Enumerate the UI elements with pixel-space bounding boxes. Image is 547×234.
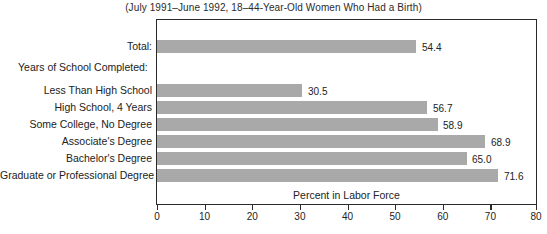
category-label-graduate-or-professional-degree: Graduate or Professional Degree [0,169,152,181]
x-axis-tick-70 [490,205,491,210]
category-label-less-than-high-school: Less Than High School [0,84,152,96]
bar-graduate-or-professional-degree [157,169,498,182]
bar-value-high-school-4-years: 56.7 [433,103,452,114]
category-label-some-college-no-degree: Some College, No Degree [0,118,152,130]
bar-value-less-than-high-school: 30.5 [308,86,327,97]
bar-value-associates-degree: 68.9 [491,137,510,148]
x-axis-tick-80 [536,205,537,210]
bar-value-graduate-or-professional-degree: 71.6 [504,171,523,182]
category-label-bachelors-degree: Bachelor's Degree [0,152,152,164]
x-axis-tick-40 [348,205,349,210]
bar-high-school-4-years [157,101,427,114]
category-label-high-school-4-years: High School, 4 Years [0,101,152,113]
x-axis-tick-label-20: 20 [247,211,258,222]
group-heading-years-of-school: Years of School Completed: [0,61,152,73]
category-label-associates-degree: Associate's Degree [0,135,152,147]
x-axis-tick-20 [252,205,253,210]
bar-bachelors-degree [157,152,467,165]
x-axis-title: Percent in Labor Force [156,189,537,201]
x-axis-tick-50 [395,205,396,210]
x-axis-tick-label-30: 30 [294,211,305,222]
x-axis-tick-label-80: 80 [530,211,541,222]
x-axis-tick-label-60: 60 [437,211,448,222]
x-axis-tick-60 [443,205,444,210]
x-axis-tick-label-70: 70 [485,211,496,222]
bar-value-bachelors-degree: 65.0 [472,154,491,165]
bar-total [157,40,416,53]
x-axis-tick-label-50: 50 [390,211,401,222]
x-axis-tick-label-10: 10 [199,211,210,222]
bar-value-total: 54.4 [422,42,441,53]
x-axis-tick-label-0: 0 [154,211,160,222]
bar-associates-degree [157,135,485,148]
x-axis-tick-label-40: 40 [342,211,353,222]
bar-less-than-high-school [157,84,302,97]
x-axis-tick-10 [205,205,206,210]
bar-value-some-college-no-degree: 58.9 [443,120,462,131]
x-axis-tick-30 [300,205,301,210]
bar-some-college-no-degree [157,118,438,131]
x-axis-tick-0 [157,205,158,210]
category-label-total: Total: [0,40,152,52]
